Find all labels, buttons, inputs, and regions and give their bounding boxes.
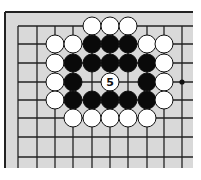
white-stone xyxy=(101,109,119,127)
black-stone xyxy=(101,91,119,109)
white-stone xyxy=(101,17,119,35)
black-stone xyxy=(138,54,156,72)
black-stone xyxy=(101,54,119,72)
white-stone xyxy=(155,91,173,109)
white-stone xyxy=(138,109,156,127)
white-stone xyxy=(46,54,64,72)
black-stone xyxy=(83,91,101,109)
white-stone xyxy=(83,17,101,35)
white-stone: 5 xyxy=(101,73,119,91)
white-stone xyxy=(46,91,64,109)
black-stone xyxy=(83,54,101,72)
black-stone xyxy=(83,35,101,53)
black-stone xyxy=(119,54,137,72)
white-stone xyxy=(64,109,82,127)
white-stone xyxy=(155,73,173,91)
black-stone xyxy=(138,73,156,91)
black-stone xyxy=(119,35,137,53)
black-stone xyxy=(138,91,156,109)
black-stone xyxy=(64,54,82,72)
move-number-label: 5 xyxy=(106,76,114,89)
white-stone xyxy=(83,109,101,127)
black-stone xyxy=(101,35,119,53)
white-stone xyxy=(64,35,82,53)
white-stone xyxy=(46,73,64,91)
white-stone xyxy=(155,54,173,72)
white-stone xyxy=(119,109,137,127)
black-stone xyxy=(64,91,82,109)
white-stone xyxy=(46,35,64,53)
star-point xyxy=(179,79,184,84)
white-stone xyxy=(155,35,173,53)
white-stone xyxy=(119,17,137,35)
black-stone xyxy=(64,73,82,91)
white-stone xyxy=(138,35,156,53)
star-points xyxy=(179,79,184,84)
black-stone xyxy=(119,91,137,109)
go-board: 5 xyxy=(0,0,201,180)
